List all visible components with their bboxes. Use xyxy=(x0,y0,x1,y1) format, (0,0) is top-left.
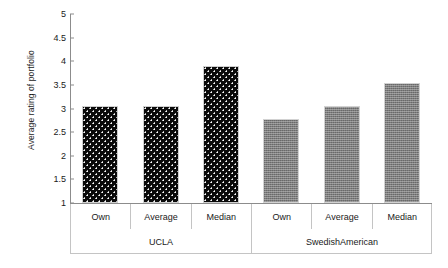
x-axis-category-label: Median xyxy=(372,204,432,229)
x-axis-category-label: Median xyxy=(191,204,251,229)
y-axis-tick-label: 1 xyxy=(61,199,66,208)
x-axis-category-label: Average xyxy=(130,204,190,229)
bar-swedishamerican-median xyxy=(384,83,420,203)
y-axis-tick-label: 2 xyxy=(61,151,66,160)
bar-ucla-average xyxy=(143,106,179,203)
y-axis-tick-label: 4 xyxy=(61,57,66,66)
bar-swedishamerican-own xyxy=(263,119,299,203)
plot-area xyxy=(70,14,432,203)
x-axis-category-label: Average xyxy=(311,204,371,229)
x-axis-category-label: Own xyxy=(70,204,130,229)
y-axis-tick-labels: 54.543.532.521.51 xyxy=(40,0,70,268)
bar-chart: Average rating of portfolio 54.543.532.5… xyxy=(0,0,448,268)
x-axis-group-label: UCLA xyxy=(70,229,251,254)
x-axis-group-label: SwedishAmerican xyxy=(251,229,432,254)
y-axis-tick-label: 1.5 xyxy=(53,175,66,184)
bar-ucla-median xyxy=(203,66,239,203)
y-axis-tick-label: 3 xyxy=(61,104,66,113)
x-axis-label-table: OwnAverageMedianOwnAverageMedianUCLASwed… xyxy=(70,204,432,254)
y-axis-tick-label: 4.5 xyxy=(53,33,66,42)
y-axis-title: Average rating of portfolio xyxy=(26,20,36,180)
y-axis-tick-label: 3.5 xyxy=(53,80,66,89)
bar-swedishamerican-average xyxy=(324,106,360,203)
y-axis-tick-label: 2.5 xyxy=(53,128,66,137)
x-axis-category-label: Own xyxy=(251,204,311,229)
y-axis-tick-label: 5 xyxy=(61,10,66,19)
bar-ucla-own xyxy=(82,106,118,203)
